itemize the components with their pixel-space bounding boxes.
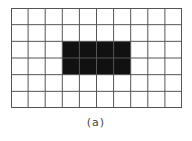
grid-diagram bbox=[11, 8, 182, 108]
figure-caption: (a) bbox=[0, 116, 192, 129]
